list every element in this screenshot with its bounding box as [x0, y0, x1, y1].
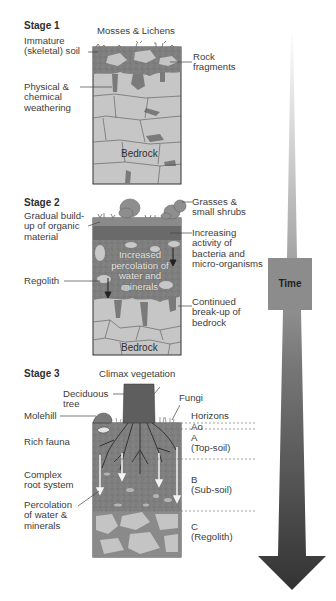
stage-3-title: Stage 3: [24, 368, 60, 379]
rock-fragments-label: Rock fragments: [193, 52, 236, 73]
bedrock-breakup-label: Continued break-up of bedrock: [192, 297, 241, 328]
climax-vegetation-label: Climax vegetation: [99, 369, 175, 379]
tree-line-2: tree: [63, 399, 108, 409]
weathering-label: Physical & chemical weathering: [24, 82, 71, 113]
molehill-label: Molehill: [24, 411, 57, 421]
horizon-a-name: (Top-soil): [191, 443, 230, 453]
fungi-label: Fungi: [179, 393, 203, 403]
breakup-line-3: bedrock: [192, 318, 241, 328]
stage-2-bedrock-label: Bedrock: [121, 342, 158, 353]
time-label: Time: [268, 278, 312, 289]
bacteria-activity-label: Increasing activity of bacteria and micr…: [192, 228, 263, 270]
immature-soil-label: Immature (skeletal) soil: [24, 36, 80, 57]
grasses-line-2: small shrubs: [192, 207, 246, 217]
horizon-c-name: (Regolith): [191, 532, 233, 542]
grasses-shrubs-label: Grasses & small shrubs: [192, 197, 246, 218]
rock-fragments-line-2: fragments: [193, 62, 236, 72]
horizon-ao-label: Ao: [191, 422, 203, 432]
immature-soil-line-2: (skeletal) soil: [24, 46, 80, 56]
rich-fauna-label: Rich fauna: [24, 437, 70, 447]
horizon-a-label: A (Top-soil): [191, 433, 230, 454]
regolith-label: Regolith: [24, 276, 59, 286]
weathering-line-3: weathering: [24, 103, 71, 113]
stage-2-title: Stage 2: [24, 197, 60, 208]
stage-1-title: Stage 1: [24, 20, 60, 31]
percolation-s3-line-3: minerals: [24, 521, 72, 531]
bacteria-line-4: micro-organisms: [192, 259, 263, 269]
stage-1-bedrock-label: Bedrock: [121, 148, 158, 159]
percolation-line-1: Increased: [100, 250, 180, 261]
deciduous-tree-label: Deciduous tree: [63, 389, 108, 410]
root-line-2: root system: [24, 480, 74, 490]
percolation-inner-label: Increased percolation of water and miner…: [100, 250, 180, 292]
root-system-label: Complex root system: [24, 470, 74, 491]
organic-line-3: material: [24, 232, 84, 242]
mosses-lichens-label: Mosses & Lichens: [97, 26, 175, 36]
time-arrow: [258, 28, 326, 590]
percolation-label: Percolation of water & minerals: [24, 500, 72, 531]
percolation-line-4: minerals: [100, 282, 180, 293]
horizons-heading: Horizons: [191, 411, 229, 421]
horizon-b-name: (Sub-soil): [191, 485, 232, 495]
organic-buildup-label: Gradual build- up of organic material: [24, 211, 84, 242]
stage-1-profile: [80, 41, 192, 184]
horizon-c-label: C (Regolith): [191, 522, 233, 543]
horizon-b-label: B (Sub-soil): [191, 475, 232, 496]
